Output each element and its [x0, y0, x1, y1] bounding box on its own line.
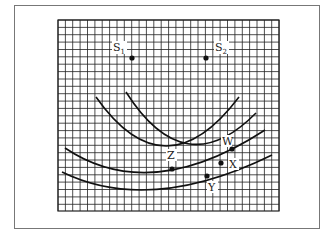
source-dot-1 — [129, 55, 134, 60]
point-dot-z — [169, 166, 174, 171]
wave-diagram: S1S2ZWXY — [0, 0, 326, 234]
point-label-z: Z — [167, 149, 175, 162]
point-dot-w — [229, 146, 234, 151]
point-dot-y — [204, 173, 209, 178]
point-label-w: W — [222, 135, 234, 148]
point-dot-x — [218, 160, 223, 165]
point-label-y: Y — [207, 181, 216, 194]
point-label-x: X — [229, 158, 237, 171]
source-dot-2 — [203, 55, 208, 60]
